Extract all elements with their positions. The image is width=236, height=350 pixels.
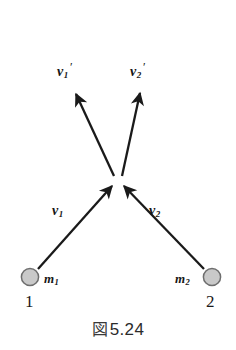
label-mass-1: m1 [44,272,59,286]
label-outgoing-velocity-2-prime: ′ [143,60,146,74]
label-mass-1-symbol: m [44,271,54,286]
label-incoming-velocity-2: v2 [149,204,161,219]
figure-caption-number: 5.24 [110,320,144,339]
label-incoming-velocity-1-subscript: 1 [59,209,64,219]
label-incoming-velocity-1: v1 [52,204,64,219]
arrow-incoming-velocity-2 [124,186,204,269]
label-mass-2-symbol: m [175,271,185,286]
label-outgoing-velocity-2: v2′ [130,61,146,80]
label-mass-1-subscript: 1 [54,277,58,287]
label-outgoing-velocity-1-subscript: 1 [64,70,69,80]
label-outgoing-velocity-2-subscript: 2 [137,70,142,80]
label-outgoing-velocity-1: v1′ [57,61,73,80]
label-incoming-velocity-2-subscript: 2 [156,209,161,219]
mass-circle-2 [203,268,220,285]
arrow-incoming-velocity-1 [38,186,112,269]
label-outgoing-velocity-1-prime: ′ [70,60,73,74]
label-incoming-velocity-1-symbol: v [52,203,58,218]
label-incoming-velocity-2-symbol: v [149,203,155,218]
arrow-outgoing-velocity-1 [76,94,114,176]
label-mass-2: m2 [175,272,190,286]
label-index-1: 1 [25,293,34,310]
figure-caption-symbol: 図 [92,321,108,338]
label-index-2: 2 [206,293,215,310]
figure-caption: 図5.24 [0,321,236,338]
label-mass-2-subscript: 2 [185,277,189,287]
collision-figure: v1′ v2′ v1 v2 m1 m2 1 2 図5.24 [0,0,236,350]
label-outgoing-velocity-1-symbol: v [57,64,63,79]
vector-diagram [0,0,236,350]
mass-circle-1 [21,268,38,285]
arrow-outgoing-velocity-2 [122,93,140,176]
label-outgoing-velocity-2-symbol: v [130,64,136,79]
